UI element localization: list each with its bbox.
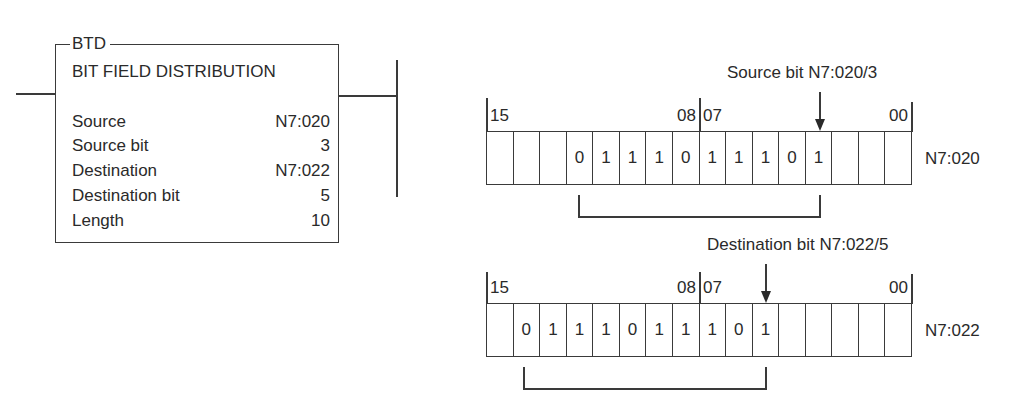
- destination-register: 0 1 1 1 0 1 1 1 0 1: [486, 303, 912, 357]
- param-row-source-bit: Source bit 3: [72, 134, 330, 158]
- param-label: Source: [72, 112, 126, 132]
- bit-cell-07: 1: [699, 132, 726, 184]
- destination-bit00-tick: [911, 274, 913, 304]
- instruction-mnemonic: BTD: [70, 35, 110, 53]
- source-register-name: N7:020: [925, 149, 980, 169]
- bit-cell-04: 0: [778, 132, 805, 184]
- bit-cell-00: [884, 304, 912, 356]
- bit-cell-00: [884, 132, 912, 184]
- source-arrow-shaft: [819, 92, 821, 122]
- source-bit-callout: Source bit N7:020/3: [727, 63, 877, 83]
- param-row-destination-bit: Destination bit 5: [72, 184, 330, 208]
- bit-cell-12: 0: [566, 132, 593, 184]
- destination-bit-label-00: 00: [889, 278, 908, 298]
- bit-cell-09: 1: [645, 132, 672, 184]
- destination-bit-label-07: 07: [703, 278, 722, 298]
- source-byte-divider-tick: [699, 98, 701, 132]
- destination-bit-label-08: 08: [677, 278, 696, 298]
- source-bit-label-15: 15: [490, 106, 509, 126]
- param-value: N7:022: [275, 161, 330, 181]
- bit-cell-14: [513, 132, 540, 184]
- param-row-length: Length 10: [72, 209, 330, 233]
- param-row-destination: Destination N7:022: [72, 159, 330, 183]
- destination-bracket-right: [765, 367, 767, 389]
- bit-cell-05: 1: [752, 304, 779, 356]
- source-bracket-left: [578, 195, 580, 217]
- bit-cell-02: [831, 304, 858, 356]
- bit-cell-01: [858, 132, 885, 184]
- bit-cell-11: 1: [592, 132, 619, 184]
- source-register: 0 1 1 1 0 1 1 1 0 1: [486, 131, 912, 185]
- source-bit-label-00: 00: [889, 106, 908, 126]
- source-bit-label-08: 08: [677, 106, 696, 126]
- bit-cell-11: 1: [592, 304, 619, 356]
- destination-register-name: N7:022: [925, 321, 980, 341]
- instruction-title: BIT FIELD DISTRIBUTION: [72, 62, 276, 82]
- source-bracket-right: [819, 195, 821, 217]
- bit-cell-06: 1: [725, 132, 752, 184]
- bit-cell-08: 0: [672, 132, 699, 184]
- param-label: Destination bit: [72, 186, 180, 206]
- bit-cell-15: [486, 304, 513, 356]
- source-bit-label-07: 07: [703, 106, 722, 126]
- bit-cell-04: [778, 304, 805, 356]
- param-value: N7:020: [275, 112, 330, 132]
- destination-bracket-left: [523, 367, 525, 389]
- bit-cell-09: 1: [645, 304, 672, 356]
- bit-cell-07: 1: [699, 304, 726, 356]
- bit-cell-15: [486, 132, 513, 184]
- bit-cell-02: [831, 132, 858, 184]
- bit-cell-03: [805, 304, 832, 356]
- param-label: Length: [72, 211, 124, 231]
- source-bracket-base: [578, 216, 821, 218]
- destination-arrow-icon: [761, 291, 771, 303]
- destination-bit15-tick: [486, 272, 488, 304]
- destination-byte-divider-tick: [699, 272, 701, 304]
- destination-bit-callout: Destination bit N7:022/5: [707, 235, 888, 255]
- rung-left-wire: [16, 93, 55, 95]
- bit-cell-10: 1: [619, 132, 646, 184]
- right-power-rail: [396, 60, 398, 197]
- bit-cell-03: 1: [805, 132, 832, 184]
- bit-cell-08: 1: [672, 304, 699, 356]
- source-bit00-tick: [911, 102, 913, 132]
- bit-cell-10: 0: [619, 304, 646, 356]
- bit-cell-13: 1: [539, 304, 566, 356]
- param-value: 5: [321, 186, 330, 206]
- source-arrow-icon: [815, 119, 825, 131]
- rung-right-wire: [339, 95, 396, 97]
- destination-bit-label-15: 15: [490, 278, 509, 298]
- bit-cell-05: 1: [752, 132, 779, 184]
- destination-bracket-base: [523, 388, 767, 390]
- bit-cell-14: 0: [513, 304, 540, 356]
- param-label: Destination: [72, 161, 157, 181]
- param-label: Source bit: [72, 136, 149, 156]
- destination-arrow-shaft: [765, 264, 767, 294]
- bit-cell-01: [858, 304, 885, 356]
- param-row-source: Source N7:020: [72, 110, 330, 134]
- bit-cell-12: 1: [566, 304, 593, 356]
- param-value: 3: [321, 136, 330, 156]
- bit-cell-13: [539, 132, 566, 184]
- source-bit15-tick: [486, 98, 488, 132]
- bit-cell-06: 0: [725, 304, 752, 356]
- param-value: 10: [311, 211, 330, 231]
